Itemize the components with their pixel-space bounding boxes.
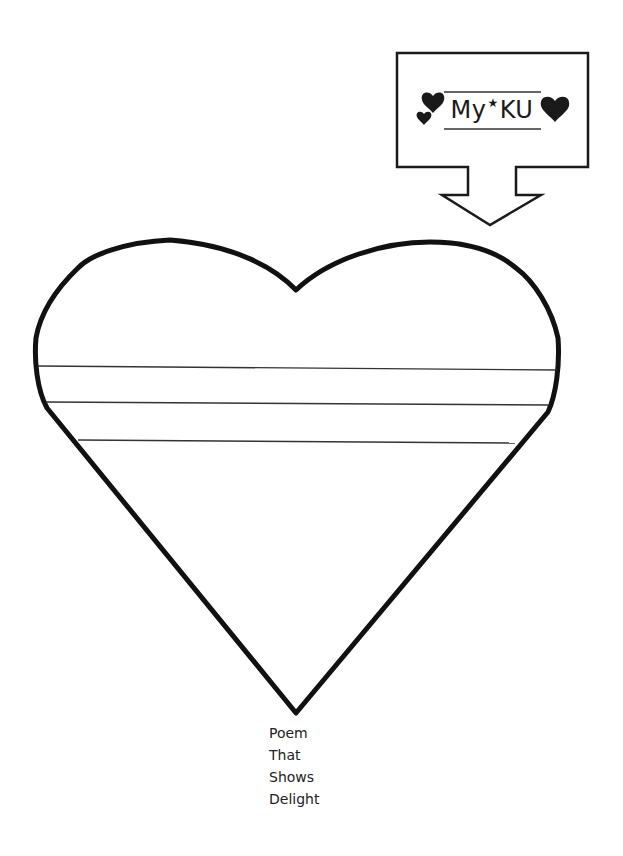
title-prefix: My xyxy=(451,96,487,124)
title-box-arrow xyxy=(397,53,588,225)
star-icon: ★ xyxy=(487,96,498,110)
caption-line: That xyxy=(269,744,319,766)
caption-line: Poem xyxy=(269,722,319,744)
title-suffix: KU xyxy=(500,96,534,124)
writing-lines xyxy=(38,366,557,443)
writing-line-3 xyxy=(78,440,515,443)
writing-line-1 xyxy=(38,366,557,370)
title-label: My ★ KU xyxy=(443,90,541,130)
caption-line: Shows xyxy=(269,766,319,788)
writing-line-2 xyxy=(46,402,548,405)
caption: Poem That Shows Delight xyxy=(269,722,319,810)
caption-line: Delight xyxy=(269,788,319,810)
worksheet-page: My ★ KU Poem That Shows Delight xyxy=(0,0,623,856)
heart-outline xyxy=(35,240,558,713)
